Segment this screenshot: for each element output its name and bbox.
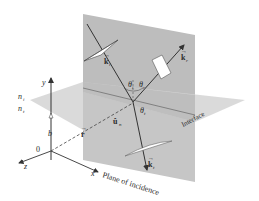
svg-text:→: → — [104, 52, 110, 58]
svg-text:r: r — [143, 85, 145, 90]
reflection-refraction-diagram: y x z 0 b n i n t r → k i → k r → k t → … — [0, 0, 259, 201]
z-axis-label: z — [23, 162, 28, 171]
svg-text:→: → — [81, 125, 87, 131]
n-i-label: n i — [18, 92, 25, 102]
svg-text:n: n — [18, 92, 22, 101]
svg-text:r: r — [186, 58, 188, 63]
plane-of-incidence-label: Plane of incidence — [101, 170, 160, 197]
b-label: b — [48, 129, 52, 138]
n-t-label: n t — [18, 104, 25, 114]
y-axis-label: y — [41, 78, 46, 87]
x-axis-label: x — [90, 169, 95, 178]
svg-text:û: û — [113, 117, 118, 126]
svg-text:i: i — [23, 97, 25, 102]
svg-text:→: → — [181, 48, 187, 54]
b-marker-icon — [49, 113, 53, 118]
svg-text:→: → — [148, 155, 154, 161]
origin-label: 0 — [36, 145, 40, 154]
svg-text:n: n — [18, 104, 22, 113]
svg-text:t: t — [23, 109, 25, 114]
svg-text:r: r — [81, 130, 85, 139]
